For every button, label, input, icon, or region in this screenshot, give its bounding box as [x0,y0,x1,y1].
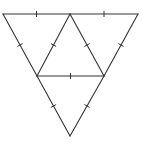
segment-m_ab-b [70,11,138,17]
segment-a-m_ab [3,11,70,17]
segment-m_ac-m_bc [37,73,104,79]
triangle-diagram [0,0,142,149]
segment-m_ac-c [37,76,70,136]
segment-m_bc-c [70,76,104,136]
segment-b-m_bc [104,14,138,76]
segment-m_ab-m_ac [37,14,70,76]
segment-a-m_ac [3,14,37,76]
segment-m_ab-m_bc [70,14,104,76]
